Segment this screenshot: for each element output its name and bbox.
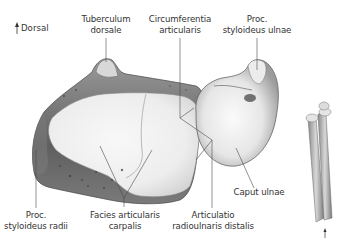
label-line: styloideus ulnae xyxy=(222,25,292,36)
label-tuberculum-dorsale: Tuberculum dorsale xyxy=(78,14,134,36)
label-line: Proc. xyxy=(2,210,70,221)
anatomy-figure: Dorsal Tuberculum dorsale Circumferentia… xyxy=(0,0,349,245)
label-line: dorsale xyxy=(78,25,134,36)
label-articulatio-radioulnaris-distalis: Articulatio radioulnaris distalis xyxy=(168,210,258,232)
radius-distal-end xyxy=(32,59,203,204)
label-circumferentia-articularis: Circumferentia articularis xyxy=(146,14,214,36)
forearm-thumbnail xyxy=(306,102,332,222)
label-line: Articulatio xyxy=(168,210,258,221)
label-proc-styloideus-ulnae: Proc. styloideus ulnae xyxy=(222,14,292,36)
label-line: Facies articularis xyxy=(88,210,162,221)
label-facies-articularis-carpalis: Facies articularis carpalis xyxy=(88,210,162,232)
label-caput-ulnae: Caput ulnae xyxy=(228,187,290,198)
label-line: articularis xyxy=(146,25,214,36)
bone-illustration xyxy=(0,0,349,245)
label-proc-styloideus-radii: Proc. styloideus radii xyxy=(2,210,70,232)
label-line: Caput ulnae xyxy=(228,187,290,198)
label-line: Circumferentia xyxy=(146,14,214,25)
label-line: radioulnaris distalis xyxy=(168,221,258,232)
arrow-up-icon xyxy=(15,22,19,34)
orientation-label: Dorsal xyxy=(21,23,49,33)
label-line: carpalis xyxy=(88,221,162,232)
arrow-up-icon xyxy=(324,228,327,238)
label-line: Tuberculum xyxy=(78,14,134,25)
label-line: styloideus radii xyxy=(2,221,70,232)
orientation-indicator: Dorsal xyxy=(21,23,49,33)
label-line: Proc. xyxy=(222,14,292,25)
